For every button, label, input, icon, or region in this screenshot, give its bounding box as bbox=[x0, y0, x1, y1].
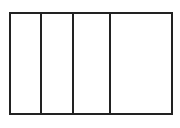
outer-rectangle bbox=[9, 12, 173, 115]
divider-1 bbox=[40, 12, 42, 115]
divider-3 bbox=[109, 12, 111, 115]
divider-2 bbox=[72, 12, 74, 115]
